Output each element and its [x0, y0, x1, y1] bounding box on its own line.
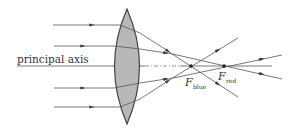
svg-text:red: red	[226, 77, 236, 84]
chromatic-aberration-diagram: principal axis	[0, 0, 296, 131]
focal-point-red	[222, 64, 226, 68]
svg-text:F: F	[184, 76, 193, 89]
focal-label-blue: F blue	[184, 76, 207, 90]
focal-point-blue	[189, 64, 193, 68]
svg-text:F: F	[217, 70, 226, 83]
svg-text:blue: blue	[193, 83, 207, 90]
focal-label-red: F red	[217, 70, 236, 84]
principal-axis-label: principal axis	[17, 53, 89, 65]
